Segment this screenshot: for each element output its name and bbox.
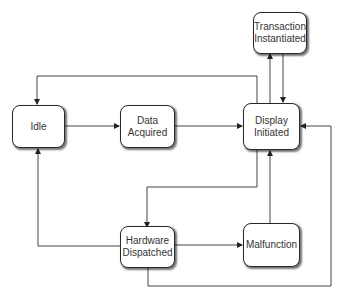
state-diagram: Transaction Instantiated Idle Data Acqui…: [0, 0, 339, 294]
edge-display-to-idle: [37, 76, 257, 104]
edge-display-to-hardware: [147, 150, 257, 227]
node-label: Idle: [30, 121, 46, 133]
node-data-acquired: Data Acquired: [120, 105, 175, 148]
node-label: Display Initiated: [254, 115, 289, 139]
node-label: Hardware Dispatched: [122, 235, 172, 259]
node-label: Data Acquired: [128, 115, 167, 139]
node-label: Transaction Instantiated: [254, 21, 306, 45]
edge-hardware-to-idle: [38, 149, 120, 246]
node-display-initiated: Display Initiated: [243, 103, 300, 150]
node-idle: Idle: [12, 105, 65, 148]
node-malfunction: Malfunction: [243, 223, 300, 267]
node-transaction-instantiated: Transaction Instantiated: [253, 12, 307, 54]
node-label: Malfunction: [246, 239, 297, 251]
node-hardware-dispatched: Hardware Dispatched: [120, 226, 175, 268]
edge-hardware-to-display: [148, 126, 331, 286]
